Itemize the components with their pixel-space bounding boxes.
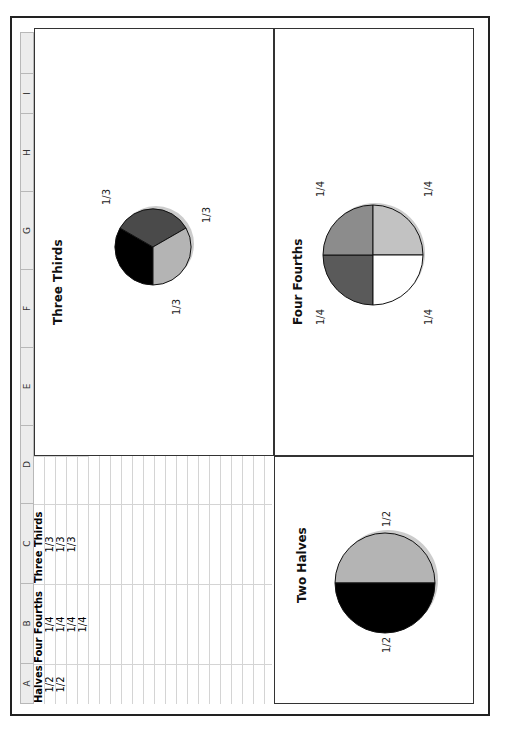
cell[interactable] <box>177 504 187 584</box>
cell[interactable] <box>133 664 143 704</box>
cell[interactable] <box>67 664 77 704</box>
pie-label: 1/3 <box>171 299 182 315</box>
empty-row <box>111 456 122 704</box>
column-header-bar: A B C D E F G H I <box>20 32 34 704</box>
cell[interactable] <box>100 584 110 664</box>
cell[interactable] <box>78 504 88 584</box>
cell[interactable] <box>210 584 220 664</box>
cell[interactable] <box>254 664 264 704</box>
cell-b1[interactable]: Four Fourths <box>34 584 44 664</box>
column-header-e[interactable]: E <box>21 347 33 425</box>
column-header-g[interactable]: G <box>21 191 33 269</box>
empty-row <box>122 456 133 704</box>
cell[interactable] <box>254 504 264 584</box>
cell[interactable] <box>56 456 66 504</box>
cell[interactable] <box>89 504 99 584</box>
cell[interactable] <box>122 664 132 704</box>
cell[interactable] <box>78 456 88 504</box>
cell[interactable] <box>265 584 272 664</box>
cell[interactable]: 1/4 <box>67 584 77 664</box>
cell[interactable] <box>188 584 198 664</box>
cell[interactable] <box>166 664 176 704</box>
cell[interactable] <box>67 456 77 504</box>
table-row: 1/2 1/4 1/3 <box>56 456 67 704</box>
spreadsheet-page: A B C D E F G H I Halves Four Fourths Th… <box>10 16 490 716</box>
chart-three-thirds[interactable]: Three Thirds 1/3 1/3 1/3 <box>34 28 274 456</box>
cell[interactable] <box>199 504 209 584</box>
cell[interactable] <box>243 504 253 584</box>
cell[interactable] <box>243 664 253 704</box>
cell[interactable] <box>199 584 209 664</box>
cell[interactable]: 1/2 <box>45 664 55 704</box>
cell[interactable] <box>111 584 121 664</box>
cell[interactable] <box>221 504 231 584</box>
cell[interactable] <box>144 584 154 664</box>
column-header-f[interactable]: F <box>21 269 33 347</box>
cell[interactable]: 1/4 <box>78 584 88 664</box>
cell[interactable] <box>122 504 132 584</box>
cell[interactable] <box>89 664 99 704</box>
chart-two-halves[interactable]: Two Halves 1/2 1/2 <box>274 456 474 704</box>
cell[interactable]: 1/4 <box>56 584 66 664</box>
cell[interactable] <box>199 664 209 704</box>
pie-label: 1/4 <box>423 309 434 325</box>
cell[interactable]: 1/3 <box>67 504 77 584</box>
cell[interactable] <box>177 664 187 704</box>
cell[interactable] <box>133 504 143 584</box>
cell-c1[interactable]: Three Thirds <box>34 504 44 584</box>
cell[interactable] <box>221 584 231 664</box>
cell[interactable] <box>177 584 187 664</box>
cell[interactable] <box>45 456 55 504</box>
pie-two-halves <box>335 529 439 633</box>
table-row: 1/4 1/3 <box>67 456 78 704</box>
column-header-d[interactable]: D <box>21 425 33 503</box>
cell[interactable] <box>265 504 272 584</box>
empty-row <box>133 456 144 704</box>
cell-grid: Halves Four Fourths Three Thirds 1/2 1/4… <box>34 456 272 704</box>
cell[interactable] <box>155 504 165 584</box>
column-header-b[interactable]: B <box>21 583 33 663</box>
cell[interactable] <box>166 584 176 664</box>
cell[interactable]: 1/2 <box>56 664 66 704</box>
cell[interactable]: 1/4 <box>45 584 55 664</box>
cell[interactable] <box>122 584 132 664</box>
cell[interactable] <box>265 664 272 704</box>
cell[interactable] <box>188 504 198 584</box>
pie-label: 1/2 <box>381 637 392 653</box>
header-row: Halves Four Fourths Three Thirds <box>34 456 45 704</box>
cell[interactable] <box>166 504 176 584</box>
cell[interactable] <box>155 664 165 704</box>
cell[interactable] <box>243 584 253 664</box>
cell[interactable] <box>210 504 220 584</box>
column-header-a[interactable]: A <box>21 663 33 703</box>
cell[interactable] <box>100 504 110 584</box>
cell[interactable]: 1/3 <box>45 504 55 584</box>
cell-a1[interactable]: Halves <box>34 664 44 704</box>
chart-four-fourths[interactable]: Four Fourths 1/4 1/4 1/4 1/4 <box>274 28 474 456</box>
cell[interactable] <box>210 664 220 704</box>
cell[interactable] <box>232 504 242 584</box>
column-header-c[interactable]: C <box>21 503 33 583</box>
cell[interactable] <box>144 664 154 704</box>
empty-row <box>89 456 100 704</box>
column-header-i[interactable]: I <box>21 73 33 113</box>
cell-d1[interactable] <box>34 456 44 504</box>
cell[interactable] <box>89 584 99 664</box>
column-header-h[interactable]: H <box>21 113 33 191</box>
cell[interactable] <box>221 664 231 704</box>
cell[interactable] <box>232 664 242 704</box>
cell[interactable] <box>111 664 121 704</box>
pie-four-fourths <box>323 199 429 305</box>
cell[interactable] <box>144 504 154 584</box>
cell[interactable] <box>254 584 264 664</box>
cell[interactable]: 1/3 <box>56 504 66 584</box>
empty-row <box>177 456 188 704</box>
empty-row <box>243 456 254 704</box>
cell[interactable] <box>188 664 198 704</box>
cell[interactable] <box>155 584 165 664</box>
cell[interactable] <box>111 504 121 584</box>
cell[interactable] <box>78 664 88 704</box>
cell[interactable] <box>232 584 242 664</box>
cell[interactable] <box>100 664 110 704</box>
cell[interactable] <box>133 584 143 664</box>
